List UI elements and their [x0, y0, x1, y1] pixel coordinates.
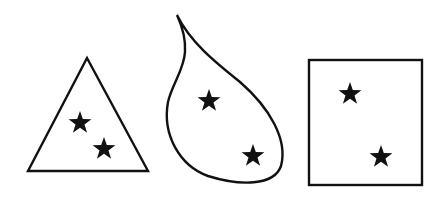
star-icon — [242, 144, 265, 166]
teardrop-shape — [167, 15, 283, 183]
star-icon — [370, 145, 393, 167]
star-icon — [69, 111, 92, 133]
triangle-shape — [28, 58, 148, 171]
rectangle-shape — [309, 60, 422, 185]
star-icon — [93, 137, 116, 159]
star-icon — [198, 89, 221, 111]
star-icon — [339, 82, 362, 104]
shapes-figure — [0, 0, 447, 199]
